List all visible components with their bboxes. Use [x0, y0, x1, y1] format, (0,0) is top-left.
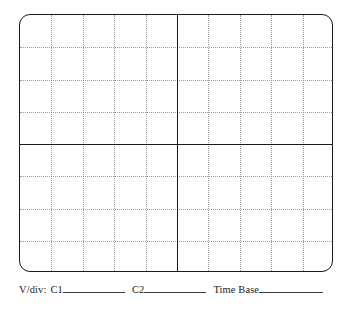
gridline-vertical [208, 15, 209, 271]
gridline-vertical [114, 15, 115, 271]
gridline-vertical [303, 15, 304, 271]
oscilloscope-screen [19, 14, 333, 272]
vdiv-label: V/div: [19, 284, 46, 295]
gridline-vertical [51, 15, 52, 271]
gridline-horizontal [20, 47, 332, 48]
channel1-blank-field[interactable] [63, 283, 125, 293]
graticule-grid [20, 15, 332, 271]
oscilloscope-graticule-figure: V/div: C1 C2 Time Base [0, 0, 353, 309]
gridline-horizontal [20, 112, 332, 113]
channel2-label: C2 [132, 284, 144, 295]
channel2-blank-field[interactable] [144, 283, 206, 293]
timebase-blank-field[interactable] [259, 283, 323, 293]
gridline-horizontal [20, 176, 332, 177]
settings-caption-row: V/div: C1 C2 Time Base [19, 283, 339, 301]
center-axis-horizontal [20, 144, 332, 145]
gridline-vertical [83, 15, 84, 271]
gridline-horizontal [20, 241, 332, 242]
gridline-vertical [146, 15, 147, 271]
gridline-horizontal [20, 80, 332, 81]
timebase-label: Time Base [213, 284, 259, 295]
center-axis-vertical [177, 15, 178, 271]
gridline-vertical [240, 15, 241, 271]
channel1-label: C1 [50, 284, 62, 295]
gridline-vertical [271, 15, 272, 271]
gridline-horizontal [20, 209, 332, 210]
